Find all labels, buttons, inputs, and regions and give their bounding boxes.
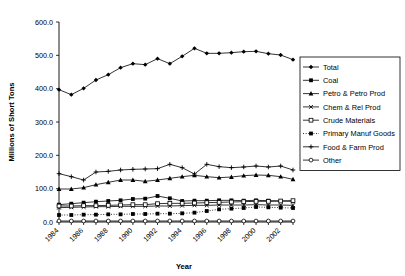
series-petro-petro-prod: [57, 173, 296, 191]
data-point: [143, 62, 147, 66]
data-point: [217, 219, 221, 223]
y-axis-title: Millions of Short Tons: [7, 82, 16, 161]
data-point: [205, 219, 209, 223]
y-tick-label: 200.0: [35, 151, 53, 160]
data-point: [217, 164, 222, 169]
data-point: [119, 212, 123, 216]
legend-box: [300, 57, 400, 170]
x-tick-label: 1986: [67, 226, 85, 244]
data-point: [57, 171, 62, 176]
data-point: [82, 213, 86, 217]
data-point: [81, 86, 85, 90]
data-point: [279, 206, 283, 210]
data-point: [278, 53, 282, 57]
data-point: [119, 198, 123, 202]
data-point: [229, 165, 234, 170]
data-point: [155, 166, 160, 171]
data-point: [291, 199, 295, 203]
chart-legend: TotalCoalPetro & Petro ProdChem & Rel Pr…: [300, 57, 400, 170]
y-tick-label: 0.0: [43, 218, 53, 227]
y-tick-label: 300.0: [35, 118, 53, 127]
data-point: [118, 168, 123, 173]
data-point: [205, 201, 209, 205]
data-point: [156, 212, 160, 216]
data-point: [94, 204, 98, 208]
data-point: [143, 212, 147, 216]
data-point: [266, 219, 270, 223]
data-point: [57, 213, 61, 217]
data-point: [241, 165, 246, 170]
data-point: [131, 203, 135, 207]
x-tick-label: 2000: [240, 226, 258, 244]
data-point: [193, 201, 197, 205]
data-point: [254, 205, 258, 209]
data-point: [180, 211, 184, 215]
data-point: [131, 212, 135, 216]
legend-item-label: Petro & Petro Prod: [323, 89, 385, 98]
data-point: [217, 51, 221, 55]
x-tick-label: 1998: [215, 226, 233, 244]
chart-figure: 0.0100.0200.0300.0400.0500.0600.01984198…: [0, 0, 405, 276]
x-axis-title: Year: [176, 262, 192, 271]
data-point: [168, 201, 172, 205]
legend-marker: [309, 132, 313, 136]
data-point: [254, 164, 259, 169]
data-point: [242, 206, 246, 210]
series-food-farm-prod: [57, 162, 296, 182]
x-tick-label: 1984: [43, 226, 61, 244]
data-point: [156, 202, 160, 206]
data-point: [81, 178, 86, 183]
data-point: [106, 219, 110, 223]
data-point: [106, 203, 110, 207]
data-point: [230, 200, 234, 204]
legend-marker: [309, 158, 313, 162]
data-point: [94, 78, 98, 82]
data-point: [168, 162, 173, 167]
data-point: [180, 201, 184, 205]
data-point: [254, 49, 258, 53]
x-tick-label: 2002: [264, 226, 282, 244]
data-point: [168, 196, 172, 200]
data-point: [291, 206, 295, 210]
data-point: [229, 50, 233, 54]
x-tick-label: 1992: [141, 226, 159, 244]
data-point: [143, 219, 147, 223]
data-point: [106, 199, 110, 203]
legend-marker: [309, 78, 313, 82]
series-path: [59, 48, 293, 94]
data-point: [242, 49, 246, 53]
data-point: [230, 207, 234, 211]
data-point: [155, 56, 159, 60]
data-point: [69, 204, 73, 208]
data-point: [266, 205, 270, 209]
data-point: [217, 207, 221, 211]
data-point: [106, 169, 111, 174]
legend-item-label: Total: [323, 63, 339, 72]
legend-item-label: Coal: [323, 76, 339, 85]
data-point: [168, 219, 172, 223]
data-point: [131, 167, 136, 172]
data-point: [156, 194, 160, 198]
data-point: [205, 209, 209, 213]
data-point: [180, 219, 184, 223]
data-point: [217, 200, 221, 204]
legend-item-label: Chem & Rel Prod: [323, 103, 381, 112]
data-point: [94, 219, 98, 223]
data-point: [156, 219, 160, 223]
data-point: [278, 164, 283, 169]
data-point: [57, 87, 61, 91]
y-tick-label: 500.0: [35, 51, 53, 60]
data-point: [119, 219, 123, 223]
data-point: [279, 219, 283, 223]
data-point: [254, 219, 258, 223]
x-tick-label: 1990: [117, 226, 135, 244]
x-tick-label: 1994: [166, 226, 184, 244]
data-point: [180, 54, 184, 58]
data-point: [266, 199, 270, 203]
data-point: [193, 211, 197, 215]
legend-item-label: Primary Manuf Goods: [323, 129, 395, 138]
y-tick-label: 600.0: [35, 18, 53, 27]
data-point: [82, 219, 86, 223]
series-path: [59, 175, 293, 189]
data-point: [143, 167, 148, 172]
